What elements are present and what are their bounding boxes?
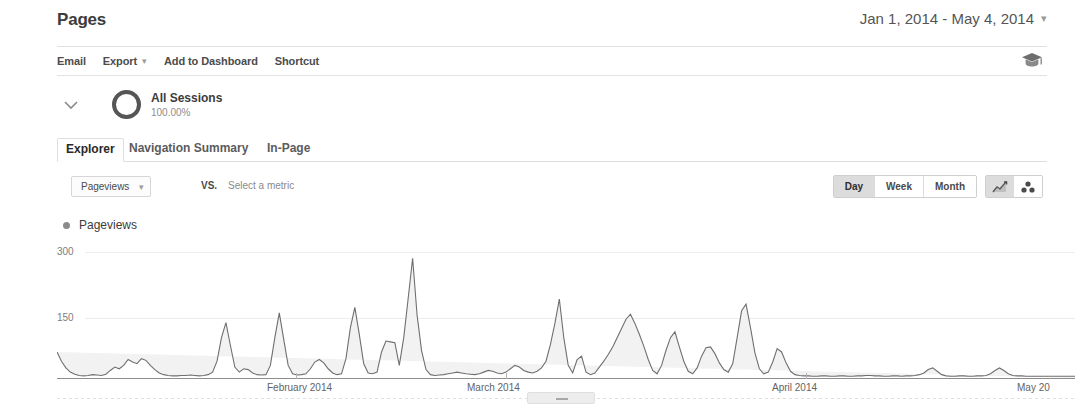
toolbar-shortcut-label: Shortcut	[275, 55, 319, 67]
toolbar-export-button[interactable]: Export▾	[103, 53, 158, 69]
granularity-week-label: Week	[886, 181, 912, 192]
x-axis-label-february: February 2014	[267, 382, 332, 393]
metric-controls: Pageviews ▾ VS. Select a metric Day Week…	[57, 176, 1047, 206]
toolbar-add-to-dashboard-label: Add to Dashboard	[164, 55, 258, 67]
tab-explorer[interactable]: Explorer	[57, 138, 124, 162]
toolbar-export-label: Export	[103, 55, 137, 67]
pageviews-chart: 300 150 February 2014 March 2014 April 2…	[57, 240, 1075, 390]
toolbar-shortcut-button[interactable]: Shortcut	[275, 53, 330, 69]
tab-in-page[interactable]: In-Page	[259, 138, 318, 162]
x-axis-tick-apr	[806, 373, 807, 379]
chevron-down-icon[interactable]	[61, 98, 81, 112]
report-tabs: Explorer Navigation Summary In-Page	[57, 138, 1047, 162]
analytics-pages-report: Pages Jan 1, 2014 - May 4, 2014▾ Email E…	[0, 0, 1075, 420]
chart-legend: Pageviews	[57, 218, 137, 232]
tab-navigation-summary-label: Navigation Summary	[129, 141, 248, 155]
x-axis-label-may: May 20	[1017, 382, 1050, 393]
toolbar-actions: Email Export▾ Add to Dashboard Shortcut	[57, 53, 336, 69]
tab-navigation-summary[interactable]: Navigation Summary	[121, 138, 256, 162]
page-title: Pages	[57, 10, 106, 30]
chevron-down-icon: ▾	[1041, 12, 1047, 25]
segment-name[interactable]: All Sessions	[151, 91, 222, 105]
primary-metric-label: Pageviews	[81, 181, 129, 192]
tab-in-page-label: In-Page	[267, 141, 310, 155]
granularity-day-label: Day	[845, 181, 863, 192]
date-range-picker[interactable]: Jan 1, 2014 - May 4, 2014▾	[860, 10, 1047, 27]
granularity-day-button[interactable]: Day	[834, 176, 875, 197]
tab-explorer-label: Explorer	[66, 142, 115, 156]
chart-type-group	[985, 175, 1043, 198]
report-header: Pages Jan 1, 2014 - May 4, 2014▾	[0, 0, 1075, 44]
line-chart-icon[interactable]	[986, 176, 1014, 197]
x-axis-label-april: April 2014	[772, 382, 817, 393]
graduation-cap-icon[interactable]	[1021, 51, 1043, 71]
vs-label: VS.	[201, 180, 217, 191]
x-axis-label-march: March 2014	[467, 382, 520, 393]
report-toolbar: Email Export▾ Add to Dashboard Shortcut	[57, 46, 1047, 76]
legend-series-label: Pageviews	[79, 218, 137, 232]
segment-bar: All Sessions 100.00%	[57, 78, 1047, 130]
toolbar-email-button[interactable]: Email	[57, 53, 97, 69]
x-axis-line	[57, 378, 1075, 379]
chevron-down-icon: ▾	[139, 182, 144, 192]
granularity-month-label: Month	[935, 181, 965, 192]
granularity-month-button[interactable]: Month	[924, 176, 976, 197]
toolbar-email-label: Email	[57, 55, 86, 67]
toolbar-add-to-dashboard-button[interactable]: Add to Dashboard	[164, 53, 269, 69]
x-axis-tick-feb	[296, 373, 297, 379]
x-axis-tick-mar	[506, 373, 507, 379]
chart-series-svg	[57, 240, 1075, 380]
donut-icon	[112, 90, 141, 119]
granularity-group: Day Week Month	[833, 175, 977, 198]
motion-chart-icon[interactable]	[1014, 176, 1042, 197]
legend-color-swatch	[63, 222, 70, 229]
secondary-metric-select[interactable]: Select a metric	[228, 180, 294, 191]
date-range-label: Jan 1, 2014 - May 4, 2014	[860, 10, 1034, 27]
granularity-week-button[interactable]: Week	[875, 176, 924, 197]
primary-metric-select[interactable]: Pageviews ▾	[71, 176, 151, 197]
chart-plot-area[interactable]	[57, 240, 1075, 380]
chevron-down-icon: ▾	[142, 56, 147, 66]
slider-grip-icon	[556, 398, 568, 400]
segment-percent: 100.00%	[151, 107, 190, 118]
date-slider-handle[interactable]	[527, 392, 595, 404]
